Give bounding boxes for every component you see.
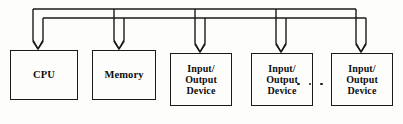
arrowhead-arrow-io-2 — [276, 44, 286, 52]
node-box-memory: Memory — [92, 50, 156, 100]
node-box-io-device-2: Input/ Output Device — [251, 53, 313, 106]
node-box-io-device-3: Input/ Output Device — [331, 53, 393, 106]
node-box-io-device-1: Input/ Output Device — [170, 53, 232, 106]
node-label-cpu: CPU — [33, 69, 55, 81]
node-label-io-device-1: Input/ Output Device — [185, 63, 217, 96]
bus-architecture-diagram: CPUMemoryInput/ Output DeviceInput/ Outp… — [0, 0, 403, 124]
arrowhead-arrow-io-1 — [195, 44, 205, 52]
arrowhead-arrow-memory — [114, 41, 124, 49]
arrowhead-arrow-io-3 — [356, 44, 366, 52]
node-label-io-device-2: Input/ Output Device — [266, 63, 298, 96]
node-label-memory: Memory — [104, 69, 143, 81]
node-box-cpu: CPU — [10, 50, 78, 100]
node-label-io-device-3: Input/ Output Device — [346, 63, 378, 96]
arrowhead-arrow-cpu — [33, 41, 43, 49]
